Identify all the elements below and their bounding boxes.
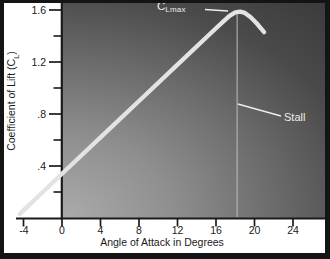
stall-leader-line: [238, 104, 281, 116]
x-tick-label-8: 8: [136, 224, 142, 236]
x-tick-label--4: -4: [19, 224, 28, 236]
y-axis-title-suffix: ): [5, 51, 17, 55]
y-axis-title: Coefficient of Lift (CL): [5, 51, 22, 151]
lift-curve-figure: 1.6 1.2 .8 .4 -4 0 4 8 12 16 20 24 Angle…: [0, 0, 330, 259]
y-axis-title-subscript: L: [12, 55, 21, 59]
x-tick-label-4: 4: [98, 224, 104, 236]
y-axis-title-text: Coefficient of Lift (C: [5, 59, 17, 151]
lift-curve-path: [20, 12, 265, 215]
x-tick-label-20: 20: [249, 224, 261, 236]
axes: [16, 3, 325, 220]
x-axis-title: Angle of Attack in Degrees: [62, 236, 262, 248]
clmax-leader-line: [205, 10, 228, 12]
tick-marks: [24, 10, 294, 227]
clmax-annotation-subscript: Lmax: [165, 5, 185, 14]
x-tick-label-12: 12: [172, 224, 184, 236]
y-tick-label-1.6: 1.6: [6, 4, 46, 16]
lift-curve-line: [20, 12, 265, 215]
stall-annotation: Stall: [284, 111, 305, 124]
chart-canvas: [0, 0, 330, 259]
clmax-annotation: CLmax: [157, 0, 186, 16]
x-tick-label-0: 0: [59, 224, 65, 236]
y-tick-label-0.4: .4: [6, 160, 46, 172]
x-tick-label-16: 16: [210, 224, 222, 236]
x-tick-label-24: 24: [287, 224, 299, 236]
